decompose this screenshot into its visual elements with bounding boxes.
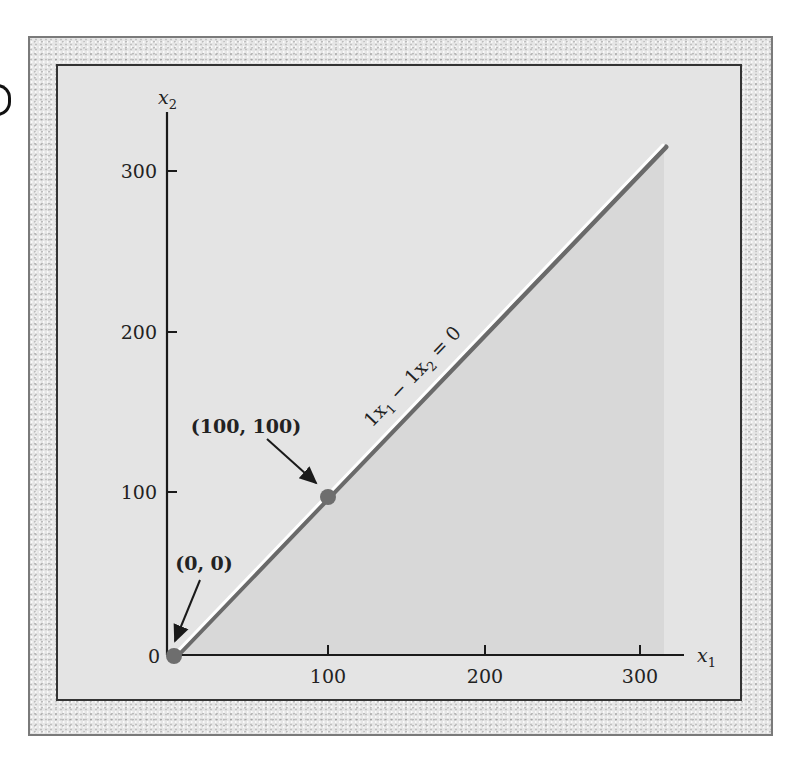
y-axis-label-var: x — [158, 86, 169, 108]
y-axis-label-sub: 2 — [169, 97, 177, 112]
y-tick-label-100: 100 — [121, 481, 157, 503]
x-tick-label-100: 100 — [310, 665, 346, 687]
point-label-100-100: (100, 100) — [191, 415, 302, 437]
y-tick-label-200: 200 — [121, 321, 157, 343]
point-label-origin: (0, 0) — [175, 552, 233, 574]
point-100-100 — [320, 489, 336, 505]
y-axis-label: x2 — [158, 86, 177, 112]
constraint-graph: 300 200 100 0 100 200 300 x2 x1 (0, 0) (… — [0, 0, 798, 757]
arrow-100-100 — [267, 439, 316, 483]
point-origin — [166, 648, 182, 664]
origin-label: 0 — [148, 645, 160, 667]
x-axis-label-var: x — [697, 644, 708, 666]
x-axis-label: x1 — [697, 644, 716, 670]
y-tick-label-300: 300 — [121, 160, 157, 182]
x-tick-label-200: 200 — [467, 665, 503, 687]
x-tick-label-300: 300 — [622, 665, 658, 687]
x-axis-label-sub: 1 — [708, 655, 716, 670]
